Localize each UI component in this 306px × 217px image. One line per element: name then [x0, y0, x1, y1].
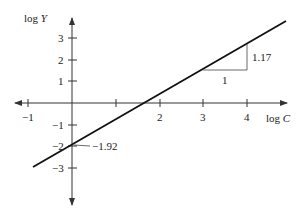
x-axis — [15, 99, 287, 107]
x-tick-label: −1 — [22, 111, 34, 123]
y-tick-label: −1 — [52, 119, 64, 131]
chart: log Y log C −1 2 3 4 3 2 1 −1 −2 −3 −1.9… — [0, 0, 306, 217]
y-tick-label: 1 — [58, 75, 64, 87]
slope-rise-label: 1.17 — [252, 51, 272, 63]
x-tick-label: 3 — [200, 111, 206, 123]
y-tick-label: −2 — [52, 140, 64, 152]
y-axis — [68, 18, 77, 205]
data-line — [33, 21, 286, 167]
y-tick-label: 3 — [58, 32, 64, 44]
y-tick-label: −3 — [52, 162, 64, 174]
y-axis-label: log Y — [24, 12, 49, 24]
slope-run-label: 1 — [222, 74, 228, 86]
x-axis-label: log C — [266, 112, 291, 124]
x-tick-label: 2 — [157, 111, 163, 123]
x-tick-label: 4 — [244, 111, 250, 123]
intercept-label: −1.92 — [92, 140, 117, 152]
y-tick-label: 2 — [58, 54, 64, 66]
